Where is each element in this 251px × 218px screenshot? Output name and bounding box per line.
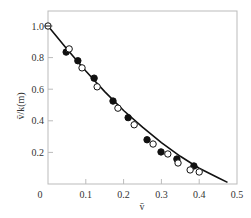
- open-point: [187, 167, 193, 173]
- filled-point: [144, 137, 150, 143]
- x-axis-label: v̄: [140, 201, 145, 212]
- x-tick-label: 0.2: [117, 189, 130, 200]
- open-point: [79, 65, 85, 71]
- chart: 00.10.20.30.40.5 0.20.40.60.81.0 v̄ v̄/k…: [0, 0, 251, 218]
- filled-point: [158, 149, 164, 155]
- fit-curve: [48, 26, 228, 182]
- x-tick-label: 0.4: [193, 189, 206, 200]
- open-point: [196, 169, 202, 175]
- x-tick-label: 0: [38, 189, 43, 200]
- filled-point: [125, 114, 131, 120]
- data-points: [45, 23, 203, 175]
- open-point: [94, 84, 100, 90]
- open-point: [131, 122, 137, 128]
- y-tick-label: 1.0: [32, 21, 45, 32]
- y-tick-label: 0.2: [32, 147, 45, 158]
- y-axis-label: v̄/k(m): [15, 92, 27, 119]
- y-tick-label: 0.8: [32, 52, 45, 63]
- filled-point: [110, 98, 116, 104]
- filled-point: [91, 75, 97, 81]
- x-tick-label: 0.3: [155, 189, 168, 200]
- open-point: [66, 46, 72, 52]
- open-point: [165, 151, 171, 157]
- open-point: [115, 105, 121, 111]
- x-axis-ticks: 00.10.20.30.40.5: [38, 179, 244, 200]
- open-point: [175, 160, 181, 166]
- y-tick-label: 0.4: [32, 115, 45, 126]
- plot-frame: [48, 11, 237, 184]
- y-tick-label: 0.6: [32, 84, 45, 95]
- open-point: [150, 141, 156, 147]
- x-tick-label: 0.1: [80, 189, 93, 200]
- filled-point: [75, 58, 81, 64]
- y-axis-ticks: 0.20.40.60.81.0: [32, 21, 54, 158]
- x-tick-label: 0.5: [231, 189, 244, 200]
